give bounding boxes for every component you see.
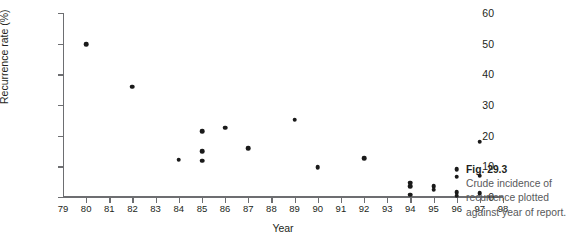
x-axis-tick-label: 87 [243,204,254,214]
x-axis-tick-label: 81 [104,204,115,214]
x-axis-title: Year [63,222,503,234]
x-axis-tick-label: 94 [405,204,416,214]
scatter-plot-area: 0102030405060798081828384858687888990919… [63,13,503,197]
scatter-point [478,140,483,145]
scatter-point [362,156,367,161]
scatter-point [200,159,205,164]
scatter-point [408,184,413,189]
scatter-point [223,125,228,130]
y-axis-tick-label: 20 [482,130,494,141]
x-axis-tick-label: 83 [150,204,161,214]
y-axis-tick-label: 50 [482,38,494,49]
x-axis-tick-label: 95 [428,204,439,214]
y-axis-tick [58,44,63,45]
scatter-point [200,149,205,154]
x-axis-tick-label: 86 [220,204,231,214]
x-axis-tick-label: 90 [312,204,323,214]
y-axis-title: Recurrence rate (%) [0,9,10,104]
x-axis-tick-label: 85 [197,204,208,214]
scatter-point [454,167,459,172]
x-axis-tick-label: 84 [173,204,184,214]
scatter-point [431,187,436,192]
scatter-point [176,157,181,162]
figure-container: Recurrence rate (%) 01020304050607980818… [0,0,581,251]
figure-caption: Fig. 29.3 Crude incidence of recurrence … [466,163,578,220]
scatter-point [246,146,251,151]
x-axis-tick-label: 91 [336,204,347,214]
y-axis-tick [58,197,63,198]
x-axis-tick-label: 93 [382,204,393,214]
y-axis-tick [58,105,63,106]
x-axis-tick-label: 88 [266,204,277,214]
x-axis-tick-label: 82 [127,204,138,214]
figure-caption-text: Crude incidence of recurrence plotted ag… [466,177,578,220]
figure-number: Fig. 29.3 [466,163,578,177]
scatter-point [315,165,320,170]
y-axis-tick [58,74,63,75]
y-axis-tick-label: 60 [482,8,494,19]
x-axis-tick-label: 80 [81,204,92,214]
x-axis-tick-label: 96 [451,204,462,214]
scatter-point [130,84,135,89]
scatter-point [408,193,413,198]
y-axis-tick [58,13,63,14]
x-axis-tick-label: 89 [289,204,300,214]
scatter-point [292,117,297,122]
y-axis-tick-label: 40 [482,69,494,80]
y-axis-tick-label: 30 [482,100,494,111]
scatter-point [84,42,89,47]
scatter-point [454,174,459,179]
x-axis-tick-label: 92 [359,204,370,214]
scatter-point [200,129,205,134]
scatter-point [454,193,459,198]
y-axis-tick [58,166,63,167]
x-axis-tick-label: 79 [58,204,69,214]
y-axis-tick [58,136,63,137]
